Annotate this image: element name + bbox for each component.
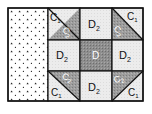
cell-r1c0-square: D2 [48,40,80,71]
cell-r2c0-half-square-triangle: C2 C1 [48,71,80,101]
cell-r2c1-square: D2 [80,71,112,101]
label-d: D [92,50,99,61]
side-print-panel [8,8,48,101]
cell-r0c2-half-square-triangle: C1 C2 [111,8,143,40]
quilt-block-diagram: C1 C2 D2 C1 C2 D2 D D2 C2 C1 D2 [0,0,152,114]
cell-r1c1-center-square: D [80,40,112,71]
cell-r0c0-half-square-triangle: C1 C2 [48,8,80,40]
cell-r0c1-square: D2 [80,8,112,40]
cell-r2c2-half-square-triangle: C2 C1 [112,71,143,101]
cell-r1c2-square: D2 [112,40,143,71]
